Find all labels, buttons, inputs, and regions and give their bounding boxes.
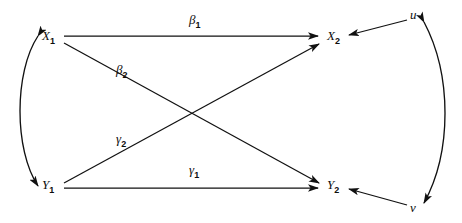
edge-group-straight — [64, 20, 407, 205]
edge-label-group: β1 β2 γ2 γ1 — [115, 12, 201, 180]
edge-label-beta2: β2 — [115, 62, 128, 80]
edge-label-beta1-sub: 1 — [195, 20, 200, 30]
node-y2-sub: 2 — [334, 185, 339, 195]
path-diagram-svg: X1 X2 Y1 Y2 u v β1 β2 γ2 — [0, 0, 462, 223]
node-x1: X1 — [41, 28, 55, 46]
node-group: X1 X2 Y1 Y2 u v — [41, 7, 417, 215]
node-y1: Y1 — [42, 177, 54, 195]
path-diagram-canvas: X1 X2 Y1 Y2 u v β1 β2 γ2 — [0, 0, 462, 223]
node-x1-sub: 1 — [50, 36, 55, 46]
edge-label-beta1: β1 — [188, 12, 201, 30]
node-y2: Y2 — [327, 177, 339, 195]
edge-group-curved — [20, 22, 445, 203]
node-v: v — [410, 200, 416, 215]
edge-label-gamma1-sub: 1 — [194, 170, 199, 180]
edge-u-to-x2-line — [349, 20, 407, 35]
node-x2-sub: 2 — [335, 36, 340, 46]
edge-label-gamma2-sub: 2 — [121, 139, 126, 149]
node-y1-sub: 1 — [49, 185, 54, 195]
node-x2: X2 — [326, 28, 340, 46]
node-u: u — [410, 7, 417, 22]
arc-x1-y1 — [20, 36, 38, 186]
edge-v-to-y2-line — [349, 189, 407, 205]
edge-label-beta2-sub: 2 — [122, 70, 127, 80]
edge-label-gamma2: γ2 — [116, 131, 126, 149]
edge-label-gamma1: γ1 — [189, 162, 199, 180]
arc-u-v — [424, 22, 445, 203]
